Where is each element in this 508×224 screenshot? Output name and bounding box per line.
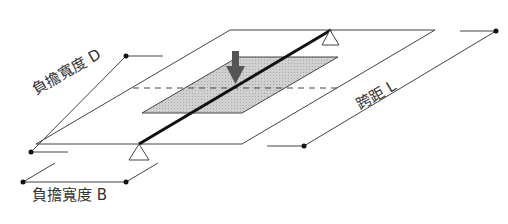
- label-load-width-b: 負擔寬度 B: [32, 188, 107, 203]
- beam: [139, 30, 331, 144]
- support-triangle-icon: [129, 144, 149, 160]
- dimension-d: [29, 54, 164, 155]
- diagram-canvas: 負擔寬度 D 跨距 L 負擔寬度 B: [0, 0, 508, 224]
- dimension-b: [21, 163, 159, 185]
